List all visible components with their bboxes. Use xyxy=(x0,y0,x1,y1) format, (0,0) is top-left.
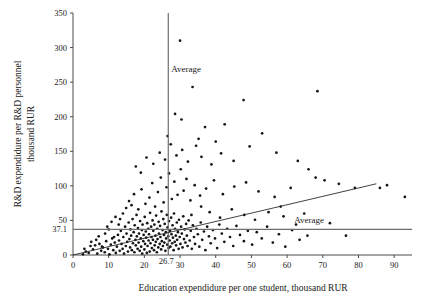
y-axis-title-line2: thousand RUR xyxy=(26,105,36,162)
data-point xyxy=(154,241,157,244)
y-tick-label: 200 xyxy=(54,112,67,122)
data-point xyxy=(180,232,183,235)
data-point xyxy=(273,196,276,199)
data-point xyxy=(139,171,142,174)
data-point xyxy=(239,234,242,237)
data-point xyxy=(173,241,176,244)
data-point xyxy=(172,236,175,239)
data-point xyxy=(149,211,152,214)
data-point xyxy=(260,237,263,240)
data-point xyxy=(82,253,85,256)
y-axis-title-line1: R&D expendidure per R&D personnel xyxy=(13,60,23,207)
data-point xyxy=(162,201,165,204)
data-point xyxy=(190,214,193,217)
data-point xyxy=(182,215,185,218)
data-point xyxy=(132,242,135,245)
data-point xyxy=(284,245,287,248)
data-point xyxy=(127,250,130,253)
data-point xyxy=(125,232,128,235)
data-point xyxy=(208,211,211,214)
data-point xyxy=(169,245,172,248)
data-point xyxy=(232,160,235,163)
data-point xyxy=(127,221,130,224)
data-point xyxy=(148,250,151,253)
data-point xyxy=(153,249,156,252)
y-average-tick-label: 37.1 xyxy=(52,224,67,234)
data-point xyxy=(108,253,111,256)
data-point xyxy=(200,205,203,208)
data-point xyxy=(130,234,133,237)
data-point xyxy=(155,214,158,217)
data-point xyxy=(194,243,197,246)
data-point xyxy=(160,210,163,213)
data-point xyxy=(257,190,260,193)
data-point xyxy=(186,245,189,248)
data-point xyxy=(170,233,173,236)
x-average-tick-label: 26.7 xyxy=(159,256,174,266)
data-point xyxy=(114,216,117,219)
data-point xyxy=(271,241,274,244)
data-point xyxy=(233,185,236,188)
data-point xyxy=(278,233,281,236)
data-point xyxy=(203,230,206,233)
data-point xyxy=(178,218,181,221)
data-point xyxy=(124,225,127,228)
data-point xyxy=(197,137,200,140)
data-point xyxy=(218,223,221,226)
data-point xyxy=(141,223,144,226)
data-point xyxy=(307,168,310,171)
data-point xyxy=(204,249,207,252)
data-point xyxy=(181,149,184,152)
data-point xyxy=(162,245,165,248)
data-point xyxy=(174,234,177,237)
data-point xyxy=(254,218,257,221)
data-point xyxy=(199,194,202,197)
data-point xyxy=(213,179,216,182)
data-point xyxy=(184,241,187,244)
data-point xyxy=(157,246,160,249)
data-point xyxy=(338,182,341,185)
x-tick-label: 50 xyxy=(247,260,256,270)
data-point xyxy=(209,242,212,245)
data-point xyxy=(172,249,175,252)
data-point xyxy=(175,244,178,247)
data-point xyxy=(90,241,93,244)
data-point xyxy=(266,225,269,228)
data-point xyxy=(157,191,160,194)
data-point xyxy=(133,224,136,227)
data-point xyxy=(165,186,168,189)
data-point xyxy=(128,200,131,203)
data-point xyxy=(142,240,145,243)
data-point xyxy=(182,189,185,192)
x-tick-label: 10 xyxy=(104,260,113,270)
data-point xyxy=(171,198,174,201)
data-point xyxy=(158,243,161,246)
data-point xyxy=(189,199,192,202)
data-point xyxy=(178,236,181,239)
x-axis-title: Education expendidure per one student, t… xyxy=(138,283,348,293)
data-point xyxy=(151,247,154,250)
data-point xyxy=(183,238,186,241)
data-point xyxy=(118,239,121,242)
y-tick-label: 100 xyxy=(54,181,67,191)
data-point xyxy=(138,232,141,235)
data-point xyxy=(190,247,193,250)
data-point xyxy=(154,205,157,208)
data-point xyxy=(204,126,207,129)
data-point xyxy=(105,240,108,243)
data-point xyxy=(173,180,176,183)
data-point xyxy=(130,204,133,207)
data-point xyxy=(216,247,219,250)
data-point xyxy=(132,231,135,234)
data-point xyxy=(153,223,156,226)
y-tick-label: 300 xyxy=(54,43,67,53)
data-point xyxy=(210,163,213,166)
data-point xyxy=(193,184,196,187)
data-point xyxy=(116,245,119,248)
data-point xyxy=(107,247,110,250)
data-point xyxy=(185,234,188,237)
data-point xyxy=(323,179,326,182)
data-point xyxy=(171,224,174,227)
data-point xyxy=(229,236,232,239)
data-point xyxy=(122,236,125,239)
